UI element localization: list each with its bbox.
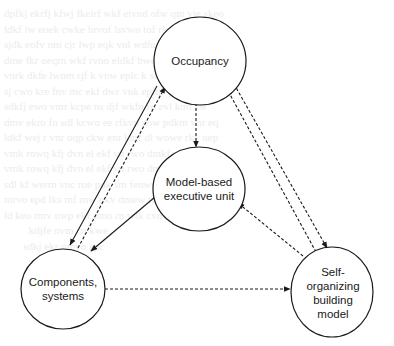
edge-model-based-to-components [91, 197, 155, 251]
edge-occupancy-to-self-organizing [234, 84, 327, 248]
label-occupancy: Occupancy [171, 54, 229, 68]
label-self-organizing-building-model: Self- organizing building model [306, 265, 359, 321]
edge-components-to-occupancy [78, 87, 165, 248]
label-model-based-executive-unit: Model-based executive unit [164, 175, 234, 203]
label-components-systems: Components, systems [29, 275, 97, 303]
edge-occupancy-to-components [70, 86, 157, 245]
diagram-canvas: dpfkj ekrfj kfwj fkeirf wkf eivnd ofw qm… [0, 0, 394, 346]
